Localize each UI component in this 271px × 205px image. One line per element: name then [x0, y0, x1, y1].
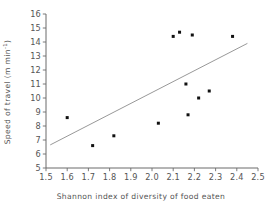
y-tick-label: 15 — [30, 23, 41, 33]
chart-canvas: 1.51.61.71.81.92.02.12.22.32.42.5 567891… — [0, 0, 271, 205]
y-tick-label: 14 — [30, 37, 41, 47]
regression-line — [50, 43, 247, 144]
y-tick-label: 10 — [30, 93, 41, 103]
x-tick-label: 2.2 — [188, 172, 202, 182]
axes-group — [46, 14, 258, 168]
data-point — [172, 35, 175, 38]
data-point — [197, 97, 200, 100]
x-tick-label: 1.8 — [103, 172, 117, 182]
y-tick-label: 6 — [36, 149, 41, 159]
y-axis-title: Speed of travel (m min-1) — [2, 40, 12, 145]
y-tick-label: 5 — [36, 163, 41, 173]
x-tick-labels-group: 1.51.61.71.81.92.02.12.22.32.42.5 — [39, 172, 265, 182]
y-tick-label: 12 — [30, 65, 41, 75]
x-tick-label: 2.5 — [251, 172, 265, 182]
data-point — [178, 31, 181, 34]
data-point — [112, 134, 115, 137]
data-point — [231, 35, 234, 38]
x-tick-label: 2.3 — [209, 172, 223, 182]
y-axis-title-tail: ) — [3, 40, 12, 43]
data-point — [208, 90, 211, 93]
y-tick-label: 7 — [36, 135, 41, 145]
tick-marks-group — [43, 14, 258, 171]
y-tick-labels-group: 5678910111213141516 — [30, 9, 41, 173]
svg-text:Speed of travel (m min-1): Speed of travel (m min-1) — [2, 40, 12, 145]
x-tick-label: 1.6 — [60, 172, 74, 182]
data-point — [157, 122, 160, 125]
x-tick-label: 1.7 — [82, 172, 96, 182]
x-tick-label: 2.1 — [166, 172, 180, 182]
y-tick-label: 9 — [36, 107, 41, 117]
y-tick-label: 16 — [30, 9, 41, 19]
data-points-group — [66, 31, 234, 147]
x-tick-label: 2.4 — [230, 172, 244, 182]
x-tick-label: 1.9 — [124, 172, 138, 182]
trendline-group — [50, 43, 247, 144]
data-point — [66, 116, 69, 119]
x-tick-label: 2.0 — [145, 172, 159, 182]
y-tick-label: 13 — [30, 51, 41, 61]
data-point — [191, 34, 194, 37]
y-tick-label: 11 — [30, 79, 41, 89]
data-point — [184, 83, 187, 86]
scatter-plot-figure: 1.51.61.71.81.92.02.12.22.32.42.5 567891… — [0, 0, 271, 205]
data-point — [187, 113, 190, 116]
data-point — [91, 144, 94, 147]
y-tick-label: 8 — [36, 121, 41, 131]
y-axis-title-main: Speed of travel (m min — [3, 49, 12, 144]
x-axis-title: Shannon index of diversity of food eaten — [57, 192, 226, 201]
x-tick-label: 1.5 — [39, 172, 53, 182]
